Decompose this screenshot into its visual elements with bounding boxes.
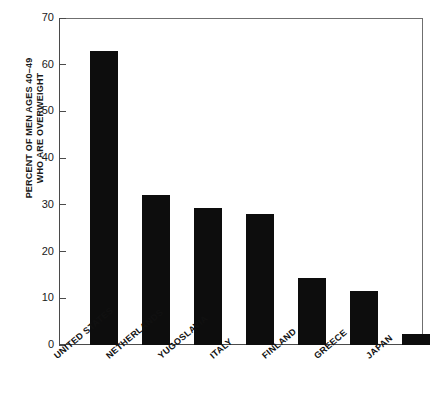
bar bbox=[402, 334, 430, 345]
y-tick-label: 10 bbox=[16, 291, 54, 304]
x-axis-labels: UNITED STATESNETHERLANDSYUGOSLAVIAITALYF… bbox=[0, 345, 445, 412]
y-tick-label: 40 bbox=[16, 151, 54, 164]
bar bbox=[350, 291, 378, 345]
y-axis-title-line-2: WHO ARE OVERWEIGHT bbox=[35, 73, 47, 184]
bar bbox=[90, 51, 118, 345]
bar bbox=[298, 278, 326, 345]
y-tick-label: 20 bbox=[16, 245, 54, 258]
y-tick-label: 30 bbox=[16, 198, 54, 211]
y-tick-label: 60 bbox=[16, 58, 54, 71]
y-tick-label: 50 bbox=[16, 104, 54, 117]
bar-chart: PERCENT OF MEN AGES 40–49 WHO ARE OVERWE… bbox=[0, 0, 445, 412]
bars-group bbox=[59, 18, 423, 345]
y-tick-label: 70 bbox=[16, 11, 54, 24]
bar bbox=[246, 214, 274, 345]
y-axis-title-line-1: PERCENT OF MEN AGES 40–49 bbox=[24, 58, 36, 199]
